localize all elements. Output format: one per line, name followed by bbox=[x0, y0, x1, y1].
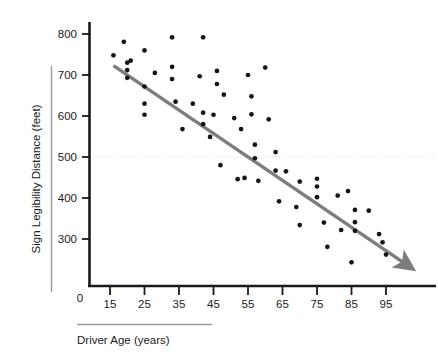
data-point bbox=[384, 252, 389, 257]
data-point bbox=[208, 135, 213, 140]
data-point bbox=[263, 65, 268, 70]
y-axis-tick-label: 800 bbox=[58, 28, 77, 40]
data-point bbox=[125, 68, 130, 73]
data-point bbox=[249, 112, 254, 117]
data-point bbox=[239, 127, 244, 132]
data-point bbox=[180, 127, 185, 132]
x-axis-tick-label: 35 bbox=[173, 298, 186, 310]
y-axis-title: Sign Legibility Distance (feet) bbox=[30, 104, 42, 253]
data-point bbox=[273, 150, 278, 155]
data-point bbox=[325, 244, 330, 249]
data-point bbox=[201, 110, 206, 115]
data-point bbox=[366, 208, 371, 213]
data-point bbox=[294, 205, 299, 210]
y-axis-tick-label: 500 bbox=[58, 151, 77, 163]
data-point bbox=[128, 58, 133, 63]
y-axis-tick-label: 700 bbox=[58, 69, 77, 81]
origin-label: 0 bbox=[77, 292, 83, 304]
x-axis-tick-label: 75 bbox=[311, 298, 324, 310]
x-axis-ticks bbox=[110, 287, 386, 295]
x-axis-tick-label: 45 bbox=[207, 298, 220, 310]
data-point bbox=[253, 142, 258, 147]
data-point bbox=[353, 220, 358, 225]
x-axis-title: Driver Age (years) bbox=[77, 334, 170, 346]
trend-line bbox=[113, 66, 403, 263]
chart-svg: 800700600500400300 152535455565758595 0 … bbox=[0, 0, 438, 362]
data-point bbox=[266, 117, 271, 122]
data-point bbox=[232, 116, 237, 121]
data-point bbox=[211, 112, 216, 117]
data-point bbox=[249, 94, 254, 99]
data-point bbox=[339, 228, 344, 233]
data-point bbox=[215, 82, 220, 87]
data-point bbox=[377, 232, 382, 237]
data-point bbox=[111, 53, 116, 58]
data-point bbox=[349, 260, 354, 265]
data-point bbox=[142, 101, 147, 106]
data-point bbox=[121, 39, 126, 44]
data-points bbox=[111, 35, 388, 265]
data-point bbox=[380, 240, 385, 245]
data-point bbox=[190, 101, 195, 106]
data-point bbox=[235, 177, 240, 182]
data-point bbox=[201, 35, 206, 40]
data-point bbox=[353, 208, 358, 213]
x-axis-tick-label: 85 bbox=[345, 298, 358, 310]
data-point bbox=[315, 195, 320, 200]
data-point bbox=[173, 99, 178, 104]
data-point bbox=[142, 112, 147, 117]
x-axis-tick-label: 95 bbox=[380, 298, 393, 310]
data-point bbox=[142, 84, 147, 89]
data-point bbox=[315, 184, 320, 189]
data-point bbox=[170, 64, 175, 69]
data-point bbox=[256, 178, 261, 183]
data-point bbox=[253, 156, 258, 161]
y-axis-tick-labels: 800700600500400300 bbox=[58, 28, 77, 245]
data-point bbox=[346, 189, 351, 194]
data-point bbox=[170, 35, 175, 40]
data-point bbox=[197, 74, 202, 79]
data-point bbox=[153, 71, 158, 76]
x-axis-tick-label: 65 bbox=[276, 298, 289, 310]
data-point bbox=[222, 92, 227, 97]
data-point bbox=[297, 179, 302, 184]
y-axis-tick-label: 400 bbox=[58, 192, 77, 204]
data-point bbox=[353, 228, 358, 233]
data-point bbox=[125, 76, 130, 81]
data-point bbox=[322, 220, 327, 225]
x-axis-tick-label: 25 bbox=[138, 298, 151, 310]
data-point bbox=[335, 193, 340, 198]
data-point bbox=[284, 169, 289, 174]
data-point bbox=[201, 122, 206, 127]
x-axis-tick-label: 55 bbox=[242, 298, 255, 310]
data-point bbox=[215, 69, 220, 74]
data-point bbox=[246, 73, 251, 78]
y-axis-tick-label: 600 bbox=[58, 110, 77, 122]
data-point bbox=[170, 77, 175, 82]
data-point bbox=[297, 223, 302, 228]
x-axis-tick-label: 15 bbox=[104, 298, 117, 310]
data-point bbox=[273, 168, 278, 173]
x-axis-tick-labels: 152535455565758595 bbox=[104, 298, 393, 310]
scatter-chart: 800700600500400300 152535455565758595 0 … bbox=[0, 0, 438, 362]
data-point bbox=[315, 176, 320, 181]
data-point bbox=[277, 199, 282, 204]
data-point bbox=[242, 176, 247, 181]
data-point bbox=[218, 163, 223, 168]
data-point bbox=[142, 48, 147, 53]
y-axis-tick-label: 300 bbox=[58, 233, 77, 245]
